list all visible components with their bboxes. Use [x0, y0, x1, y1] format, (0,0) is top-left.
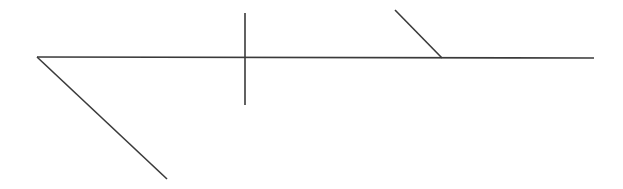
- drawing-canvas: [0, 0, 623, 189]
- horizontal-baseline: [37, 57, 594, 58]
- canvas-background: [0, 0, 623, 189]
- line-drawing-svg: [0, 0, 623, 189]
